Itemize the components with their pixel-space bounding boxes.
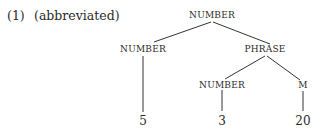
leaf-20: 20 bbox=[295, 115, 310, 127]
node-left-number: NUMBER bbox=[120, 45, 166, 54]
node-phrase-number: NUMBER bbox=[199, 81, 245, 90]
node-m: M bbox=[298, 81, 307, 90]
leaf-3: 3 bbox=[218, 115, 226, 127]
node-phrase: PHRASE bbox=[244, 45, 285, 54]
leaf-5: 5 bbox=[139, 115, 147, 127]
node-root: NUMBER bbox=[189, 11, 235, 20]
tree-edges bbox=[0, 0, 325, 131]
edge-root-left bbox=[154, 22, 211, 42]
edge-phrase-number bbox=[225, 56, 265, 79]
edge-phrase-m bbox=[267, 56, 300, 80]
edge-root-phrase bbox=[213, 22, 270, 44]
